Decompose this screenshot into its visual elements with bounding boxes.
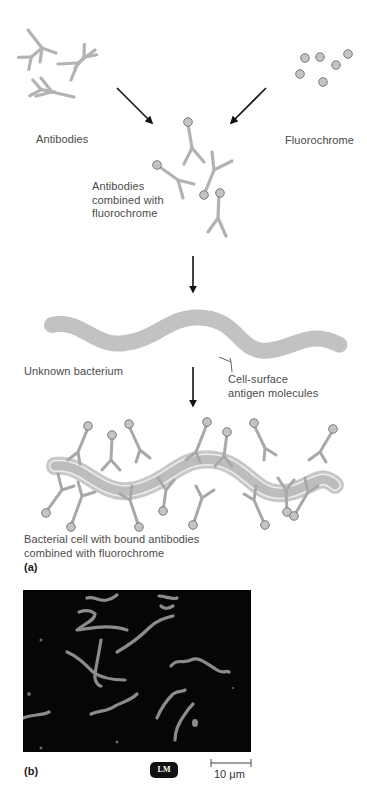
bound-label-line1: Bacterial cell with bound antibodies xyxy=(24,533,199,547)
bacterium-icon xyxy=(52,318,340,351)
antigen-label: Cell-surface antigen molecules xyxy=(228,373,318,400)
fluorochrome-label: Fluorochrome xyxy=(285,134,354,148)
combined-label-line1: Antibodies xyxy=(92,180,164,194)
combined-antibodies-icon xyxy=(157,124,232,236)
combined-label-line2: combined with xyxy=(92,194,164,208)
bacterium-label: Unknown bacterium xyxy=(24,365,123,379)
combined-label-line3: fluorochrome xyxy=(92,207,164,221)
arrow-fluorochrome xyxy=(231,88,266,123)
micrograph-bacteria xyxy=(23,590,251,752)
antibodies-label: Antibodies xyxy=(36,133,88,147)
antigen-pointer xyxy=(219,357,232,372)
antigen-label-line2: antigen molecules xyxy=(228,387,318,401)
figure: Antibodies Fluorochrome Antibodies combi… xyxy=(0,0,367,792)
micrograph xyxy=(23,590,251,752)
bound-label: Bacterial cell with bound antibodies com… xyxy=(24,533,199,560)
bound-bacterium-icon xyxy=(42,418,338,532)
arrow-antibodies xyxy=(117,88,152,123)
free-antibodies-icon xyxy=(18,30,96,100)
combined-label: Antibodies combined with fluorochrome xyxy=(92,180,164,221)
antigen-label-line1: Cell-surface xyxy=(228,373,318,387)
panel-a-label: (a) xyxy=(24,561,37,573)
lm-badge: LM xyxy=(150,762,178,778)
panel-b-label: (b) xyxy=(24,765,38,777)
scale-bar-label: 10 μm xyxy=(214,768,245,780)
bound-label-line2: combined with fluorochrome xyxy=(24,547,199,561)
scale-bar xyxy=(210,759,255,767)
fluorochrome-icon xyxy=(296,50,353,87)
